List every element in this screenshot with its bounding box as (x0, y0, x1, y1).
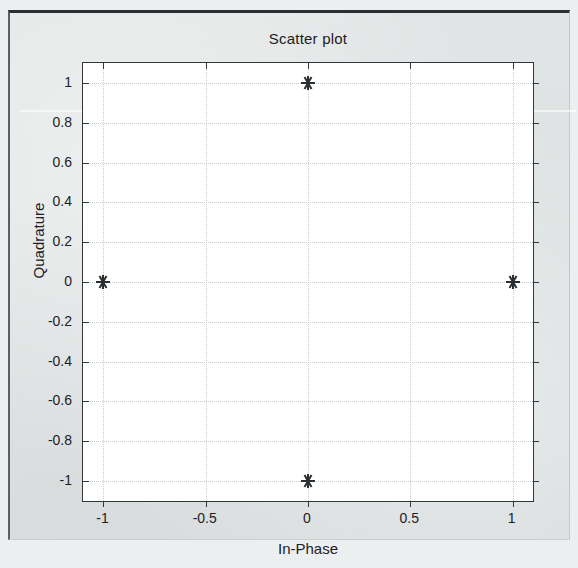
y-axis-tick (83, 83, 89, 84)
gridline-vertical (308, 63, 309, 501)
gridline-horizontal (83, 401, 533, 402)
y-axis-tick (83, 481, 89, 482)
y-tick-label: -0.4 (12, 353, 72, 369)
gridline-vertical (410, 63, 411, 501)
scanned-page: Scatter plot In-Phase Quadrature -1-0.50… (0, 0, 578, 568)
x-axis-tick (513, 501, 514, 507)
y-tick-label: 1 (12, 74, 72, 90)
y-axis-tick (83, 322, 89, 323)
y-axis-tick-right (533, 123, 539, 124)
x-axis-tick (308, 501, 309, 507)
gridline-horizontal (83, 441, 533, 442)
x-axis-tick (103, 501, 104, 507)
y-axis-tick-right (533, 242, 539, 243)
gridline-vertical (513, 63, 514, 501)
y-axis-tick (83, 362, 89, 363)
x-axis-tick-top (103, 63, 104, 69)
y-axis-tick-right (533, 282, 539, 283)
y-axis-tick-right (533, 83, 539, 84)
y-axis-tick-right (533, 322, 539, 323)
y-axis-tick (83, 242, 89, 243)
y-axis-tick-right (533, 163, 539, 164)
x-axis-tick (206, 501, 207, 507)
gridline-horizontal (83, 362, 533, 363)
x-tick-label: 1 (508, 510, 516, 526)
x-axis-tick-top (410, 63, 411, 69)
x-tick-label: -0.5 (193, 510, 217, 526)
y-axis-tick (83, 441, 89, 442)
y-axis-tick-right (533, 362, 539, 363)
y-tick-label: -1 (12, 472, 72, 488)
gridline-horizontal (83, 163, 533, 164)
y-axis-tick (83, 401, 89, 402)
gridline-horizontal (83, 481, 533, 482)
y-axis-tick-right (533, 401, 539, 402)
x-axis-tick-top (513, 63, 514, 69)
gridline-horizontal (83, 83, 533, 84)
x-axis-tick (410, 501, 411, 507)
chart-title: Scatter plot (82, 30, 534, 47)
y-tick-label: 0.6 (12, 154, 72, 170)
y-tick-label: 0.4 (12, 193, 72, 209)
x-axis-tick-top (308, 63, 309, 69)
gridline-vertical (103, 63, 104, 501)
y-axis-tick (83, 202, 89, 203)
gridline-horizontal (83, 123, 533, 124)
y-axis-tick (83, 282, 89, 283)
x-axis-tick-top (206, 63, 207, 69)
gridline-vertical (206, 63, 207, 501)
gridline-horizontal (83, 322, 533, 323)
x-axis-label: In-Phase (82, 540, 534, 557)
y-tick-label: 0.8 (12, 114, 72, 130)
y-tick-label: -0.6 (12, 392, 72, 408)
gridline-horizontal (83, 202, 533, 203)
x-tick-label: 0.5 (400, 510, 419, 526)
y-axis-tick-right (533, 202, 539, 203)
y-tick-label: 0.2 (12, 233, 72, 249)
y-tick-label: -0.2 (12, 313, 72, 329)
plot-area (82, 62, 534, 502)
y-axis-tick-right (533, 441, 539, 442)
gridline-horizontal (83, 282, 533, 283)
y-tick-label: -0.8 (12, 432, 72, 448)
y-axis-tick (83, 163, 89, 164)
x-tick-label: 0 (303, 510, 311, 526)
y-axis-tick (83, 123, 89, 124)
gridline-horizontal (83, 242, 533, 243)
x-tick-label: -1 (96, 510, 108, 526)
y-axis-tick-right (533, 481, 539, 482)
y-tick-label: 0 (12, 273, 72, 289)
